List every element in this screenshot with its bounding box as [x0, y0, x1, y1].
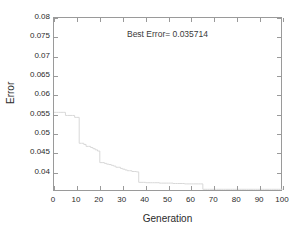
y-axis-tick: [277, 134, 281, 135]
y-tick-label: 0.045: [18, 148, 50, 156]
y-axis-tick: [277, 95, 281, 96]
x-tick-label: 90: [255, 196, 264, 204]
x-axis-tick: [260, 18, 261, 22]
y-axis-tick: [54, 115, 58, 116]
y-axis-tick: [54, 76, 58, 77]
y-tick-label: 0.05: [18, 129, 50, 137]
y-axis-tick: [277, 153, 281, 154]
x-tick-label: 80: [232, 196, 241, 204]
x-axis-tick: [123, 186, 124, 190]
x-axis-tick: [260, 186, 261, 190]
x-tick-label: 20: [94, 196, 103, 204]
x-tick-label: 0: [51, 196, 55, 204]
x-axis-tick: [169, 186, 170, 190]
x-tick-label: 40: [140, 196, 149, 204]
x-axis-tick: [214, 18, 215, 22]
y-axis-tick: [54, 18, 58, 19]
data-series-line: [54, 112, 283, 189]
y-tick-label: 0.04: [18, 168, 50, 176]
x-axis-label: Generation: [53, 214, 282, 224]
x-axis-tick: [146, 18, 147, 22]
x-tick-label: 50: [163, 196, 172, 204]
x-axis-tick: [77, 186, 78, 190]
x-axis-tick: [54, 186, 55, 190]
y-tick-label: 0.07: [18, 52, 50, 60]
x-axis-tick: [169, 18, 170, 22]
y-axis-tick: [277, 115, 281, 116]
y-axis-tick: [277, 18, 281, 19]
plot-area: [53, 17, 282, 191]
y-axis-tick: [277, 173, 281, 174]
x-axis-tick: [283, 186, 284, 190]
x-axis-tick: [191, 186, 192, 190]
y-axis-tick: [54, 95, 58, 96]
y-tick-label: 0.08: [18, 13, 50, 21]
x-axis-tick: [283, 18, 284, 22]
x-tick-label: 70: [209, 196, 218, 204]
x-tick-label: 10: [71, 196, 80, 204]
y-axis-label: Error: [6, 82, 16, 104]
y-axis-tick: [277, 57, 281, 58]
chart-screenshot: Error 0.040.0450.050.0550.060.0650.070.0…: [0, 0, 304, 236]
x-axis-tick: [191, 18, 192, 22]
x-axis-tick: [77, 18, 78, 22]
data-series-layer: [54, 18, 283, 192]
y-axis-tick: [277, 76, 281, 77]
x-axis-tick: [123, 18, 124, 22]
y-tick-label: 0.055: [18, 110, 50, 118]
y-axis-tick: [54, 173, 58, 174]
x-tick-label: 100: [275, 196, 288, 204]
x-axis-tick: [237, 186, 238, 190]
y-axis-tick: [54, 134, 58, 135]
y-axis-tick: [54, 153, 58, 154]
x-axis-tick: [100, 186, 101, 190]
best-error-annotation: Best Error= 0.035714: [53, 30, 282, 39]
x-axis-tick: [146, 186, 147, 190]
x-axis-tick: [237, 18, 238, 22]
y-tick-label: 0.075: [18, 32, 50, 40]
y-axis-tick: [54, 57, 58, 58]
y-tick-label: 0.06: [18, 90, 50, 98]
x-tick-label: 30: [117, 196, 126, 204]
x-tick-label: 60: [186, 196, 195, 204]
x-axis-tick: [214, 186, 215, 190]
y-tick-label: 0.065: [18, 71, 50, 79]
x-axis-tick: [100, 18, 101, 22]
